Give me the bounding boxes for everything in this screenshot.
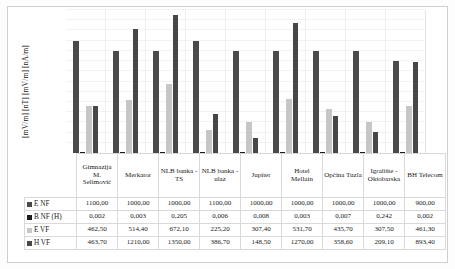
bar bbox=[133, 29, 139, 153]
bar bbox=[246, 122, 252, 153]
data-cell: 435,70 bbox=[323, 224, 364, 237]
bar-group bbox=[145, 10, 185, 153]
data-cell: 0,008 bbox=[241, 211, 282, 224]
legend-label: H VF bbox=[34, 239, 50, 247]
table-row: E VF462,50514,40672,10225,20307,40531,70… bbox=[25, 224, 446, 237]
data-cell: 0,006 bbox=[200, 211, 241, 224]
data-cell: 1000,00 bbox=[323, 198, 364, 211]
table-row: E NF1100,001000,001000,001100,001000,001… bbox=[25, 198, 446, 211]
data-cell: 1000,00 bbox=[159, 198, 200, 211]
data-cell: 463,70 bbox=[77, 237, 118, 250]
category-header-cell: NLB banka - TS bbox=[159, 154, 200, 198]
data-cell: 358,60 bbox=[323, 237, 364, 250]
data-cell: 900,00 bbox=[405, 198, 446, 211]
category-label: Hotel Mellain bbox=[283, 168, 321, 184]
category-label: Općina Tuzla bbox=[324, 172, 362, 180]
bar bbox=[73, 41, 79, 153]
bar bbox=[153, 51, 159, 153]
table-row: H VF463,701210,001350,00386,70148,501270… bbox=[25, 237, 446, 250]
data-cell: 1000,00 bbox=[241, 198, 282, 211]
bar-group bbox=[265, 10, 305, 153]
data-cell: 1350,00 bbox=[159, 237, 200, 250]
data-cell: 1210,00 bbox=[118, 237, 159, 250]
bar-group bbox=[345, 10, 385, 153]
bar bbox=[233, 51, 239, 153]
data-cell: 0,007 bbox=[323, 211, 364, 224]
data-cell: 462,50 bbox=[77, 224, 118, 237]
table-header-row: Gimnazija M. SelimovićMerkatorNLB banka … bbox=[25, 154, 446, 198]
bar-group bbox=[185, 10, 225, 153]
bar bbox=[353, 51, 359, 153]
data-cell: 0,242 bbox=[364, 211, 405, 224]
y-axis-title-text: [mV/m] [nT] [mV/m] [nA/m] bbox=[21, 45, 30, 138]
legend-entry: E NF bbox=[25, 198, 77, 211]
bar-group bbox=[305, 10, 345, 153]
legend-label: E VF bbox=[34, 226, 49, 234]
data-cell: 461,30 bbox=[405, 224, 446, 237]
chart-figure: [mV/m] [nT] [mV/m] [nA/m] Gimnazija M. S… bbox=[0, 0, 455, 269]
bar-group bbox=[105, 10, 145, 153]
category-header-cell: Merkator bbox=[118, 154, 159, 198]
legend-swatch-icon bbox=[27, 202, 32, 207]
table-row: B NF (H)0,0020,0030,2050,0060,0080,0030,… bbox=[25, 211, 446, 224]
bar bbox=[126, 100, 132, 153]
data-cell: 148,50 bbox=[241, 237, 282, 250]
data-cell: 893,40 bbox=[405, 237, 446, 250]
bar bbox=[113, 51, 119, 153]
bar bbox=[333, 116, 339, 153]
legend-entry: H VF bbox=[25, 237, 77, 250]
data-cell: 307,50 bbox=[364, 224, 405, 237]
category-label: Merkator bbox=[119, 172, 157, 180]
y-axis-title: [mV/m] [nT] [mV/m] [nA/m] bbox=[14, 6, 36, 176]
data-cell: 1000,00 bbox=[282, 198, 323, 211]
category-header-cell: Gimnazija M. Selimović bbox=[77, 154, 118, 198]
bar bbox=[213, 114, 219, 153]
bar bbox=[273, 51, 279, 153]
plot-area bbox=[66, 10, 426, 153]
category-header-cell: Igralište - Oktobarska bbox=[364, 154, 405, 198]
category-label: Gimnazija M. Selimović bbox=[78, 164, 116, 187]
data-cell: 0,003 bbox=[118, 211, 159, 224]
data-cell: 0,002 bbox=[77, 211, 118, 224]
table-corner-cell bbox=[25, 154, 77, 198]
category-label: Jupiter bbox=[242, 172, 280, 180]
data-cell: 1100,00 bbox=[77, 198, 118, 211]
bar bbox=[193, 41, 199, 153]
category-label: Igralište - Oktobarska bbox=[365, 168, 403, 184]
legend-swatch-icon bbox=[27, 228, 32, 233]
bar bbox=[166, 84, 172, 153]
category-label: BH Telecom bbox=[406, 172, 444, 180]
legend-swatch-icon bbox=[27, 241, 32, 246]
legend-entry: B NF (H) bbox=[25, 211, 77, 224]
bar bbox=[293, 23, 299, 153]
data-cell: 307,40 bbox=[241, 224, 282, 237]
data-cell: 386,70 bbox=[200, 237, 241, 250]
data-cell: 1000,00 bbox=[118, 198, 159, 211]
data-cell: 209,10 bbox=[364, 237, 405, 250]
bar bbox=[206, 130, 212, 153]
bar bbox=[313, 51, 319, 153]
data-cell: 672,10 bbox=[159, 224, 200, 237]
legend-label: E NF bbox=[34, 200, 49, 208]
data-table: Gimnazija M. SelimovićMerkatorNLB banka … bbox=[24, 153, 446, 250]
bar bbox=[366, 122, 372, 153]
data-cell: 1100,00 bbox=[200, 198, 241, 211]
category-header-cell: Jupiter bbox=[241, 154, 282, 198]
bar bbox=[253, 138, 259, 153]
data-cell: 514,40 bbox=[118, 224, 159, 237]
data-cell: 1270,00 bbox=[282, 237, 323, 250]
data-cell: 225,20 bbox=[200, 224, 241, 237]
bar-group bbox=[385, 10, 425, 153]
category-header-cell: Hotel Mellain bbox=[282, 154, 323, 198]
bar bbox=[413, 62, 419, 153]
data-cell: 0,205 bbox=[159, 211, 200, 224]
bar bbox=[286, 99, 292, 153]
bar-group bbox=[66, 10, 105, 153]
data-cell: 0,002 bbox=[405, 211, 446, 224]
bar bbox=[326, 109, 332, 154]
legend-label: B NF (H) bbox=[34, 213, 62, 221]
legend-entry: E VF bbox=[25, 224, 77, 237]
bar bbox=[373, 132, 379, 153]
bar-groups bbox=[66, 10, 425, 153]
bar bbox=[393, 61, 399, 153]
